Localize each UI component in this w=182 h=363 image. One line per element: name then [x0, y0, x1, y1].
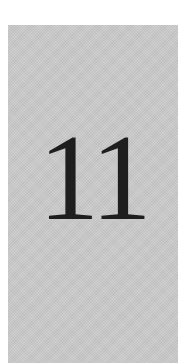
chapter-number: 11: [8, 117, 178, 239]
chapter-title-panel: 11: [8, 25, 178, 363]
